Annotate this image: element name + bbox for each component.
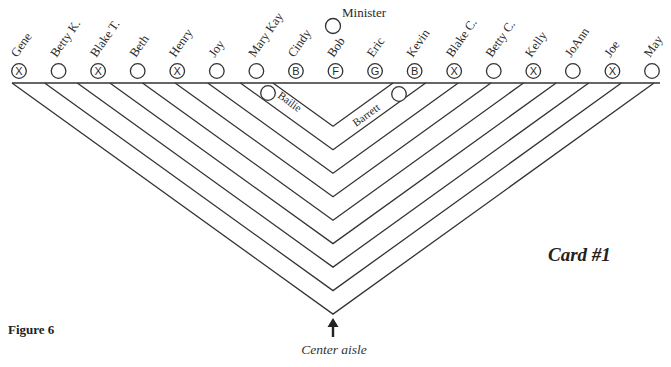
seat-name: May (641, 32, 666, 59)
row-seats: BailieBarrett (261, 86, 407, 129)
x-mark-icon: X (451, 65, 459, 77)
seat-circle (566, 64, 581, 79)
aisle-arrow-icon (328, 318, 339, 337)
row-seat-name: Barrett (350, 101, 382, 129)
row-seat-circle (261, 86, 276, 101)
seat: FBob (324, 35, 347, 79)
row-seat-name: Bailie (276, 89, 304, 114)
seat-mark: G (371, 65, 380, 77)
seat: BKevin (404, 26, 433, 78)
seat-name: Blake T. (87, 17, 122, 59)
seat: GEric (364, 34, 388, 78)
seat: XHenry (166, 25, 196, 78)
seat: XBlake T. (87, 17, 122, 78)
v-row-line (45, 83, 622, 291)
seat-name: Mary Kay (245, 9, 286, 59)
v-row-line (208, 83, 459, 173)
seat-name: JoAnn (562, 24, 593, 59)
seat-mark: B (292, 65, 299, 77)
center-aisle-label: Center aisle (300, 342, 368, 358)
seat-mark: B (411, 65, 418, 77)
x-mark-icon: X (94, 65, 102, 77)
seat-name: Blake C. (443, 16, 480, 60)
seat-name: Bob (324, 35, 347, 60)
seat: Joy (206, 37, 228, 78)
seat-circle (249, 64, 264, 79)
seat-name: Kevin (404, 26, 433, 60)
seat-name: Gene (8, 30, 35, 60)
seat-circle (210, 64, 225, 79)
minister-label: Minister (342, 5, 387, 20)
minister: Minister (326, 5, 387, 34)
seat: Betty C. (483, 18, 518, 79)
seat-name: Betty C. (483, 18, 518, 60)
seat-name: Henry (166, 25, 196, 59)
seat: Mary Kay (245, 9, 286, 78)
seat-name: Eric (364, 34, 388, 59)
seat: XGene (8, 30, 35, 79)
seat: Betty K. (48, 17, 84, 78)
seat: XJoe (601, 38, 622, 79)
v-rows (12, 83, 654, 314)
seat: Beth (127, 32, 152, 79)
minister-seat (326, 19, 341, 34)
v-row-line (77, 83, 589, 267)
seat-name: Joy (206, 37, 228, 60)
row-seat-circle (392, 87, 407, 102)
seat-circle (51, 64, 66, 79)
card-label: Card #1 (548, 244, 611, 266)
seat-circle (645, 64, 660, 79)
x-mark-icon: X (609, 65, 617, 77)
seat-name: Joe (601, 38, 622, 60)
seat-name: Cindy (285, 26, 314, 60)
seat: XKelly (522, 28, 550, 78)
row-seat: Bailie (261, 86, 305, 114)
seat-name: Beth (127, 32, 152, 60)
seat: May (641, 32, 666, 78)
seat: BCindy (285, 26, 314, 78)
seat-circle (130, 64, 145, 79)
x-mark-icon: X (174, 65, 182, 77)
seat-name: Kelly (522, 28, 550, 59)
seat: JoAnn (562, 24, 593, 78)
processional-diagram: XGeneBetty K.XBlake T.BethXHenryJoyMary … (0, 0, 671, 367)
x-mark-icon: X (530, 65, 538, 77)
v-row-line (143, 83, 524, 220)
seat-circle (486, 64, 501, 79)
v-row-line (12, 83, 654, 314)
x-mark-icon: X (15, 65, 23, 77)
seat: XBlake C. (443, 16, 480, 78)
seat-name: Betty K. (48, 17, 84, 60)
figure-label: Figure 6 (8, 322, 54, 338)
seat-mark: F (332, 65, 339, 77)
